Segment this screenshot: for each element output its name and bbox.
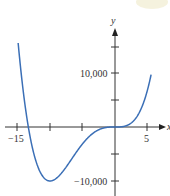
x-tick-label: −15	[8, 133, 24, 144]
y-tick-label: 10,000	[80, 68, 108, 79]
x-axis-label: x	[166, 121, 170, 132]
y-axis-arrow-icon	[112, 28, 118, 36]
y-tick-label: −10,000	[74, 176, 107, 187]
x-axis-arrow-icon	[159, 124, 166, 130]
function-curve	[18, 43, 151, 181]
chart: −15 5 x 10,000 −10,000 y	[0, 0, 170, 196]
decorative-smudge	[136, 0, 168, 9]
y-axis: 10,000 −10,000 y	[74, 15, 119, 196]
x-tick-label: 5	[144, 133, 149, 144]
y-axis-label: y	[110, 15, 116, 26]
